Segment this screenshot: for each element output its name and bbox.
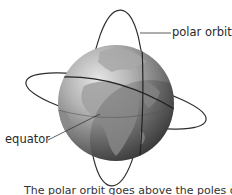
earth-globe <box>58 45 210 195</box>
figure-caption: The polar orbit goes above the poles of … <box>24 184 232 195</box>
orbit-diagram: polar orbit equator The polar orbit goes… <box>0 0 232 195</box>
polar-orbit-label: polar orbit <box>172 27 232 39</box>
equator-label: equator <box>5 134 50 146</box>
